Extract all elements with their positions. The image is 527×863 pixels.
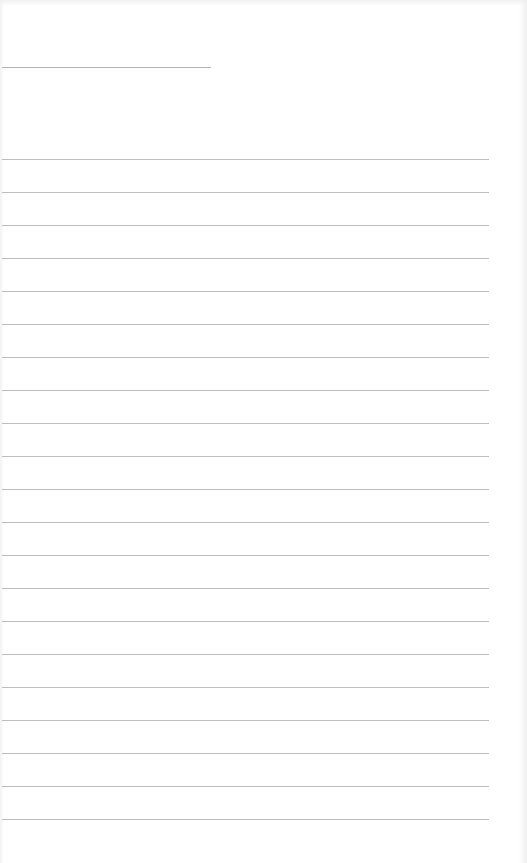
ruled-line — [2, 720, 489, 721]
ruled-line — [2, 258, 489, 259]
ruled-line — [2, 291, 489, 292]
ruled-line — [2, 390, 489, 391]
ruled-line — [2, 225, 489, 226]
ruled-line — [2, 489, 489, 490]
ruled-line — [2, 423, 489, 424]
ruled-line — [2, 522, 489, 523]
ruled-line — [2, 753, 489, 754]
ruled-line — [2, 456, 489, 457]
ruled-line — [2, 159, 489, 160]
ruled-line — [2, 819, 489, 820]
ruled-line — [2, 786, 489, 787]
page-right-edge — [519, 0, 527, 863]
ruled-line — [2, 357, 489, 358]
page-left-edge — [0, 0, 4, 863]
ruled-line — [2, 555, 489, 556]
ruled-line — [2, 621, 489, 622]
title-underline — [2, 67, 211, 68]
ruled-line — [2, 324, 489, 325]
ruled-page — [0, 0, 527, 863]
ruled-line — [2, 192, 489, 193]
ruled-line — [2, 687, 489, 688]
ruled-line — [2, 654, 489, 655]
ruled-line — [2, 588, 489, 589]
page-top-edge — [0, 0, 527, 6]
